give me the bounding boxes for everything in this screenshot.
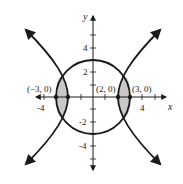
graph-canvas: y x -4 4 4 2 -2 -4 (−3, 0) (2, 0) (3, 0) [0,0,183,184]
tick-label-x-4: 4 [140,103,145,113]
point-label-neg3-0: (−3, 0) [27,84,52,94]
point-label-2-0: (2, 0) [96,84,116,94]
point-label-3-0: (3, 0) [132,84,152,94]
tick-label-x-neg4: -4 [37,103,45,113]
tick-label-y-4: 4 [83,43,88,53]
tick-label-y-neg4: -4 [79,141,87,151]
point-neg2-0 [66,95,70,99]
point-2-0 [116,95,120,99]
y-axis-label: y [82,11,88,22]
point-neg3-0 [54,95,58,99]
x-axis-label: x [167,101,173,112]
tick-label-y-2: 2 [83,67,88,77]
point-3-0 [128,95,132,99]
tick-label-y-neg2: -2 [79,117,87,127]
